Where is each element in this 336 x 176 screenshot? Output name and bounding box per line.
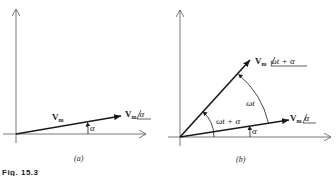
phasor-diagram: Vm Vmα α (a) Vmωt + α Vmα ωt ωt + α α (b… bbox=[0, 0, 336, 176]
figure-caption: Fig. 15.3 bbox=[2, 167, 39, 176]
phasor-vector-a bbox=[16, 116, 121, 134]
panel-label-a: (a) bbox=[74, 154, 84, 163]
alpha-label-a: α bbox=[90, 123, 95, 133]
panel-a: Vm Vmα α (a) bbox=[3, 9, 151, 163]
vm-label-a: Vm bbox=[52, 112, 64, 123]
omega-t-plus-alpha-label: ωt + α bbox=[216, 116, 240, 126]
panel-b: Vmωt + α Vmα ωt ωt + α α (b) bbox=[168, 10, 331, 164]
vm-angle-label-a: Vmα bbox=[125, 109, 145, 120]
omega-t-label: ωt bbox=[246, 98, 255, 108]
alpha-arc-a bbox=[88, 123, 89, 135]
alpha-arc-b bbox=[249, 126, 250, 137]
alpha-label-b: α bbox=[252, 126, 257, 136]
panel-label-b: (b) bbox=[236, 155, 246, 164]
